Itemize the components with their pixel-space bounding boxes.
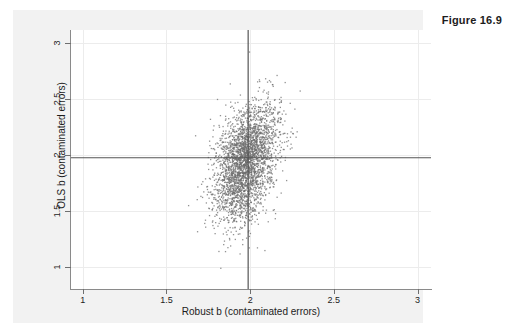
x-tick-mark bbox=[334, 289, 335, 294]
x-tick-label: 1 bbox=[80, 295, 85, 305]
figure-root: 11.522.53 11.522.53 Robust b (contaminat… bbox=[0, 0, 516, 334]
x-tick-mark bbox=[250, 289, 251, 294]
x-tick-label: 2 bbox=[248, 295, 253, 305]
x-tick-label: 2.5 bbox=[328, 295, 341, 305]
x-tick-mark bbox=[83, 289, 84, 294]
y-tick-label: 1 bbox=[52, 259, 62, 275]
scatter-plot-canvas bbox=[71, 30, 431, 289]
y-axis-label: OLS b (contaminated errors) bbox=[56, 36, 67, 256]
y-tick-mark bbox=[65, 267, 71, 268]
plot-area bbox=[71, 30, 431, 289]
x-tick-mark bbox=[166, 289, 167, 294]
y-axis-line bbox=[70, 30, 71, 290]
x-axis-label: Robust b (contaminated errors) bbox=[71, 306, 431, 317]
figure-caption: Figure 16.9 bbox=[442, 14, 502, 26]
x-tick-mark bbox=[418, 289, 419, 294]
x-tick-label: 1.5 bbox=[160, 295, 173, 305]
x-tick-label: 3 bbox=[415, 295, 420, 305]
graph-panel: 11.522.53 11.522.53 Robust b (contaminat… bbox=[13, 10, 423, 323]
